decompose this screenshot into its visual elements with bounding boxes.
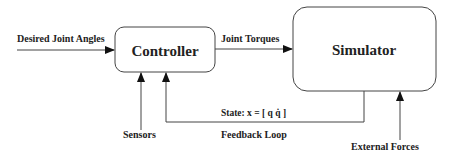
input-label: Desired Joint Angles xyxy=(17,33,105,44)
control-loop-diagram: Controller Simulator Desired Joint Angle… xyxy=(0,0,449,154)
external-label: External Forces xyxy=(351,141,419,152)
feedback-label: Feedback Loop xyxy=(221,129,287,140)
torques-label: Joint Torques xyxy=(221,33,280,44)
torques-edge: Joint Torques xyxy=(215,33,292,49)
input-edge: Desired Joint Angles xyxy=(17,33,114,50)
controller-block: Controller xyxy=(115,27,215,72)
state-label: State: x = [ q q̇ ] xyxy=(221,108,286,118)
controller-label: Controller xyxy=(131,43,199,59)
sensors-label: Sensors xyxy=(123,129,156,140)
simulator-label: Simulator xyxy=(332,42,397,58)
simulator-block: Simulator xyxy=(293,7,436,91)
sensors-edge: Sensors xyxy=(123,73,156,140)
